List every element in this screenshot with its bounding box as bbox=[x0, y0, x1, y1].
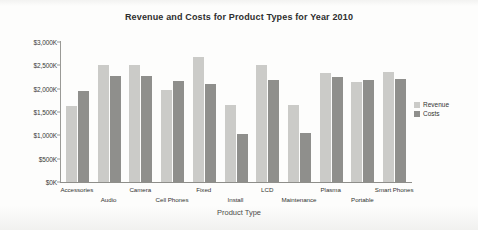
bar-revenue[interactable] bbox=[66, 106, 77, 182]
y-axis-tick-label: $1,500K bbox=[33, 109, 57, 116]
legend-label: Costs bbox=[423, 110, 440, 117]
chart-legend: RevenueCosts bbox=[414, 101, 474, 119]
y-axis-tick-label: $500K bbox=[39, 155, 57, 162]
bar-group bbox=[192, 42, 216, 182]
x-axis-tick-label: Audio bbox=[101, 196, 117, 203]
bar-group bbox=[224, 42, 248, 182]
x-axis-tick-label: Install bbox=[228, 196, 244, 203]
bar-costs[interactable] bbox=[141, 76, 152, 182]
x-axis-tick-label: Camera bbox=[129, 186, 151, 193]
legend-swatch-icon bbox=[414, 111, 420, 117]
bar-revenue[interactable] bbox=[383, 72, 394, 182]
x-axis-tick-label: Accessories bbox=[60, 186, 93, 193]
bar-group bbox=[160, 42, 184, 182]
bar-costs[interactable] bbox=[363, 80, 374, 182]
bar-revenue[interactable] bbox=[351, 82, 362, 182]
y-axis-tick-label: $2,500K bbox=[33, 62, 57, 69]
bar-group bbox=[319, 42, 343, 182]
y-axis-tick-label: $1,000K bbox=[33, 132, 57, 139]
bar-revenue[interactable] bbox=[288, 105, 299, 182]
legend-swatch-icon bbox=[414, 102, 420, 108]
bar-group bbox=[97, 42, 121, 182]
bar-costs[interactable] bbox=[78, 91, 89, 182]
bar-revenue[interactable] bbox=[161, 90, 172, 182]
x-axis-tick-label: Portable bbox=[351, 196, 374, 203]
x-axis-tick-label: Plasma bbox=[321, 186, 341, 193]
y-axis-tick-labels: $3,000K$2,500K$2,000K$1,500K$1,000K$500K… bbox=[0, 42, 57, 182]
bar-revenue[interactable] bbox=[320, 73, 331, 182]
x-axis-tick-label: LCD bbox=[261, 186, 273, 193]
x-axis-title: Product Type bbox=[0, 208, 478, 217]
x-axis-line bbox=[60, 182, 412, 183]
x-axis-tick-label: Maintenance bbox=[282, 196, 317, 203]
bar-revenue[interactable] bbox=[256, 65, 267, 182]
x-axis-tick-label: Cell Phones bbox=[156, 196, 189, 203]
bar-group bbox=[65, 42, 89, 182]
plot-area bbox=[61, 42, 410, 182]
bar-revenue[interactable] bbox=[225, 105, 236, 182]
bar-revenue[interactable] bbox=[129, 65, 140, 182]
chart-screenshot: Revenue and Costs for Product Types for … bbox=[0, 0, 478, 230]
bar-group bbox=[128, 42, 152, 182]
bar-group bbox=[350, 42, 374, 182]
bar-costs[interactable] bbox=[395, 79, 406, 182]
bar-group bbox=[287, 42, 311, 182]
bar-revenue[interactable] bbox=[98, 65, 109, 182]
legend-item[interactable]: Costs bbox=[414, 110, 474, 117]
y-axis-tick-label: $3,000K bbox=[33, 39, 57, 46]
chart-title: Revenue and Costs for Product Types for … bbox=[0, 12, 478, 22]
bar-costs[interactable] bbox=[110, 76, 121, 182]
bar-group bbox=[255, 42, 279, 182]
bar-costs[interactable] bbox=[237, 134, 248, 182]
x-axis-tick-label: Smart Phones bbox=[375, 186, 414, 193]
bar-group bbox=[382, 42, 406, 182]
legend-item[interactable]: Revenue bbox=[414, 101, 474, 108]
bar-costs[interactable] bbox=[268, 80, 279, 182]
bar-costs[interactable] bbox=[300, 133, 311, 182]
bar-costs[interactable] bbox=[332, 77, 343, 182]
bar-costs[interactable] bbox=[173, 81, 184, 182]
bar-revenue[interactable] bbox=[193, 57, 204, 182]
bar-costs[interactable] bbox=[205, 84, 216, 182]
y-axis-tick-label: $0K bbox=[46, 179, 57, 186]
legend-label: Revenue bbox=[423, 101, 449, 108]
x-axis-tick-label: Fixed bbox=[196, 186, 211, 193]
y-axis-tick-label: $2,000K bbox=[33, 85, 57, 92]
